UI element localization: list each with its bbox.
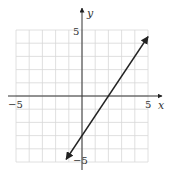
x-max-label: 5 [145, 99, 151, 110]
y-min-label: −5 [73, 155, 88, 166]
function-line [66, 37, 148, 160]
y-max-label: 5 [73, 26, 79, 37]
coordinate-plane: −5 5 x 5 −5 y [0, 0, 172, 173]
y-axis-label: y [86, 7, 94, 20]
x-axis-label: x [158, 99, 165, 112]
x-min-label: −5 [8, 99, 23, 110]
